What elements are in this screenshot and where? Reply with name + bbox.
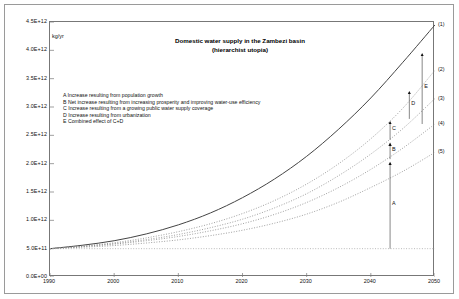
- y-tick-label: 4.5E+12: [26, 18, 47, 24]
- x-tick-label: 2020: [236, 278, 248, 284]
- y-tick-label: 1.0E+12: [26, 216, 47, 222]
- y-tick-label: 3.0E+12: [26, 103, 47, 109]
- y-tick-label: 2.5E+12: [26, 131, 47, 137]
- y-tick-label: 5.0E+11: [26, 245, 47, 251]
- arrow-label-d: D: [411, 100, 415, 106]
- figure-frame: 0.0E+005.0E+111.0E+121.5E+122.0E+122.5E+…: [4, 4, 454, 294]
- series-line-(4): [50, 124, 435, 249]
- x-axis-tick-labels: 1990200020102020203020402050: [49, 278, 434, 290]
- x-tick-label: 2040: [364, 278, 376, 284]
- y-tick-label: 1.5E+12: [26, 188, 47, 194]
- chart-title-line-2: (hierarchist utopia): [125, 45, 355, 54]
- arrow-label-c: C: [392, 125, 396, 131]
- y-tick-label: 3.5E+12: [26, 75, 47, 81]
- x-tick-label: 2010: [171, 278, 183, 284]
- curve-label-4: (4): [438, 120, 445, 126]
- x-tick-label: 2030: [300, 278, 312, 284]
- plot-area: [49, 21, 434, 276]
- arrow-label-e: E: [424, 83, 428, 89]
- arrow-label-b: B: [392, 146, 396, 152]
- y-tick-label: 2.0E+12: [26, 160, 47, 166]
- legend-item-d: D Increase resulting from urbanization: [63, 112, 260, 119]
- arrow-label-a: A: [392, 200, 396, 206]
- curve-label-2: (2): [438, 66, 445, 72]
- y-axis-unit-label: kg/yr: [52, 33, 64, 39]
- curve-label-5: (5): [438, 148, 445, 154]
- curve-label-3: (3): [438, 95, 445, 101]
- curve-label-1: (1): [438, 21, 445, 27]
- series-line-(5): [50, 152, 435, 248]
- legend-item-e: E Combined effect of C+D: [63, 118, 260, 125]
- chart-title-line-1: Domestic water supply in the Zambezi bas…: [125, 36, 355, 45]
- chart-title: Domestic water supply in the Zambezi bas…: [125, 36, 355, 54]
- legend-item-c: C Increase resulting from a growing publ…: [63, 105, 260, 112]
- y-tick-label: 4.0E+12: [26, 46, 47, 52]
- legend-item-a: A Increase resulting from population gro…: [63, 92, 260, 99]
- plot-svg: [50, 22, 435, 277]
- x-tick-label: 2000: [107, 278, 119, 284]
- series-line-(1): [50, 25, 435, 249]
- chart-page: 0.0E+005.0E+111.0E+121.5E+122.0E+122.5E+…: [0, 0, 459, 299]
- x-tick-label: 2050: [428, 278, 440, 284]
- legend: A Increase resulting from population gro…: [63, 92, 260, 125]
- y-axis-tick-labels: 0.0E+005.0E+111.0E+121.5E+122.0E+122.5E+…: [11, 21, 47, 276]
- x-tick-label: 1990: [43, 278, 55, 284]
- legend-item-b: B Net increase resulting from increasing…: [63, 99, 260, 106]
